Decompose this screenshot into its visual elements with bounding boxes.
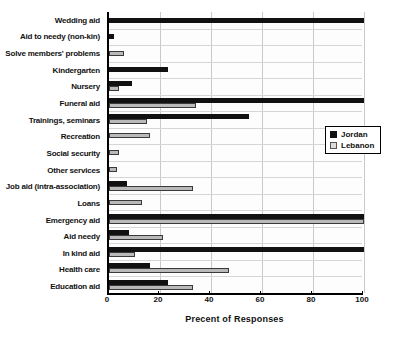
legend-swatch-icon [330, 131, 337, 138]
bar-group [109, 12, 362, 29]
y-axis-label: Job aid (intra-association) [0, 178, 104, 195]
bar-group [109, 194, 362, 211]
y-axis-label: In kind aid [0, 245, 104, 262]
bar-jordan [109, 18, 364, 23]
chart-legend: JordanLebanon [325, 126, 381, 154]
x-axis-tick-label: 0 [105, 295, 109, 304]
bar-lebanon [109, 200, 142, 205]
y-axis-label: Aid needy [0, 228, 104, 245]
bar-group [109, 29, 362, 46]
y-axis-label: Recreation [0, 128, 104, 145]
x-axis-tick-label: 20 [154, 295, 163, 304]
legend-swatch-icon [330, 142, 337, 149]
y-axis-label: Social security [0, 145, 104, 162]
bar-group [109, 161, 362, 178]
bar-lebanon [109, 167, 117, 172]
plot-area [107, 12, 362, 295]
bar-group [109, 243, 362, 260]
x-axis-ticks: 020406080100 [107, 295, 362, 309]
y-axis-label: Kindergarten [0, 62, 104, 79]
bar-lebanon [109, 86, 119, 91]
bar-lebanon [109, 119, 147, 124]
bar-group [109, 78, 362, 95]
bar-group [109, 177, 362, 194]
bar-chart: Wedding aidAid to needy (non-kin)Solve m… [0, 0, 400, 339]
bar-group [109, 45, 362, 62]
bar-group [109, 277, 362, 294]
y-axis-label: Health care [0, 262, 104, 279]
y-axis-label: Loans [0, 195, 104, 212]
bar-lebanon [109, 219, 364, 224]
bar-lebanon [109, 103, 196, 108]
y-axis-category-labels: Wedding aidAid to needy (non-kin)Solve m… [0, 12, 104, 295]
y-axis-label: Education aid [0, 278, 104, 295]
bar-lebanon [109, 235, 163, 240]
bar-group [109, 260, 362, 277]
bar-jordan [109, 67, 168, 72]
bar-lebanon [109, 133, 150, 138]
y-axis-label: Aid to needy (non-kin) [0, 29, 104, 46]
y-axis-label: Emergency aid [0, 212, 104, 229]
y-axis-label: Trainings, seminars [0, 112, 104, 129]
x-axis-tick-label: 80 [307, 295, 316, 304]
y-axis-label: Other services [0, 162, 104, 179]
legend-item: Lebanon [330, 141, 374, 150]
legend-label: Jordan [341, 130, 368, 139]
bar-lebanon [109, 268, 229, 273]
y-axis-label: Wedding aid [0, 12, 104, 29]
y-axis-label: Solve members' problems [0, 45, 104, 62]
bar-lebanon [109, 186, 193, 191]
bar-group [109, 227, 362, 244]
x-axis-tick-label: 60 [256, 295, 265, 304]
bar-group [109, 62, 362, 79]
y-axis-label: Nursery [0, 79, 104, 96]
bar-group [109, 95, 362, 112]
bar-lebanon [109, 150, 119, 155]
legend-label: Lebanon [341, 141, 374, 150]
bar-jordan [109, 34, 114, 39]
bar-jordan [109, 247, 364, 252]
bar-lebanon [109, 252, 135, 257]
y-axis-label: Funeral aid [0, 95, 104, 112]
x-axis-tick-label: 100 [355, 295, 368, 304]
legend-item: Jordan [330, 130, 374, 139]
x-axis-tick-label: 40 [205, 295, 214, 304]
bar-lebanon [109, 51, 124, 56]
bar-group [109, 210, 362, 227]
x-axis-title: Precent of Responses [107, 314, 362, 324]
bar-lebanon [109, 285, 193, 290]
